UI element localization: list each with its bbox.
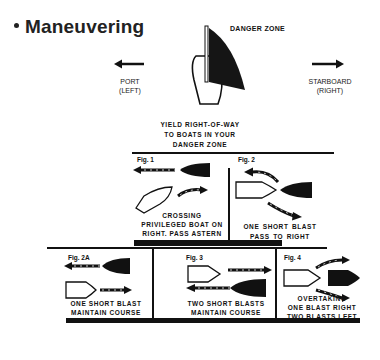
fig2a-diagram [62,258,152,298]
fig4-caption: OVERTAKINGONE BLAST RIGHTTWO BLASTS LEFT [282,294,362,321]
fig3-diagram [184,258,284,298]
fig2-diagram [232,160,342,230]
fig2-caption: ONE SHORT BLASTPASS TO RIGHT [238,222,322,242]
port-label: PORT(LEFT) [112,77,148,95]
fig1-caption: CROSSINGPRIVILEGED BOAT ONRIGHT. PASS AS… [138,211,226,238]
divider [132,152,334,154]
fig2a-caption: ONE SHORT BLASTMAINTAIN COURSE [60,299,152,317]
danger-zone-label: DANGER ZONE [230,25,285,32]
divider [152,248,154,318]
port-arrow-icon [114,59,154,69]
starboard-label: STARBOARD(RIGHT) [302,77,358,95]
starboard-arrow-icon [312,59,352,69]
fig3-caption: TWO SHORT BLASTSMAINTAIN COURSE [180,299,272,317]
yield-text: YIELD RIGHT-OF-WAYTO BOATS IN YOURDANGER… [125,120,275,150]
divider [47,247,327,249]
